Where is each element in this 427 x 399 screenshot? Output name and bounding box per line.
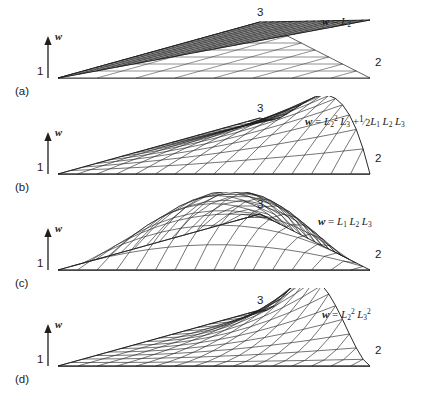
panel-a: (a)123ww = L2 xyxy=(0,0,427,108)
vertex-label-2: 2 xyxy=(375,152,381,164)
equation-annotation: w = L2 xyxy=(322,16,351,28)
w-axis-arrowhead xyxy=(44,228,51,237)
vertex-label-3: 3 xyxy=(257,198,263,210)
w-axis-arrowhead xyxy=(44,132,51,141)
vertex-label-3: 3 xyxy=(257,294,263,306)
vertex-label-2: 2 xyxy=(375,248,381,260)
panel-surface-plot xyxy=(0,192,427,300)
vertex-label-3: 3 xyxy=(257,102,263,114)
vertex-label-1: 1 xyxy=(37,161,43,173)
equation-annotation: w = L22L32 xyxy=(322,308,371,322)
w-axis-arrowhead xyxy=(44,324,51,333)
axis-label-w: w xyxy=(55,223,62,234)
vertex-label-1: 1 xyxy=(37,65,43,77)
vertex-label-2: 2 xyxy=(375,56,381,68)
surface-fill xyxy=(58,288,370,366)
axis-label-w: w xyxy=(55,319,62,330)
w-axis-arrowhead xyxy=(44,36,51,45)
vertex-label-3: 3 xyxy=(257,6,263,18)
axis-label-w: w xyxy=(55,31,62,42)
panel-c: (c)123ww = L1L2L3 xyxy=(0,192,427,300)
vertex-label-1: 1 xyxy=(37,353,43,365)
vertex-label-2: 2 xyxy=(375,344,381,356)
equation-annotation: w = L22L3 +1⁄2L1L2L3 xyxy=(305,115,405,129)
panel-b: (b)123ww = L22L3 +1⁄2L1L2L3 xyxy=(0,96,427,204)
axis-label-w: w xyxy=(55,127,62,138)
panel-surface-plot xyxy=(0,0,427,108)
equation-annotation: w = L1L2L3 xyxy=(318,216,372,228)
panel-surface-plot xyxy=(0,96,427,204)
panel-surface-plot xyxy=(0,288,427,396)
figure-shape-function-surfaces: (a)123ww = L2(b)123ww = L22L3 +1⁄2L1L2L3… xyxy=(0,0,427,399)
panel-d: (d)123ww = L22L32 xyxy=(0,288,427,396)
vertex-label-1: 1 xyxy=(37,257,43,269)
panel-tag: (d) xyxy=(15,373,29,385)
